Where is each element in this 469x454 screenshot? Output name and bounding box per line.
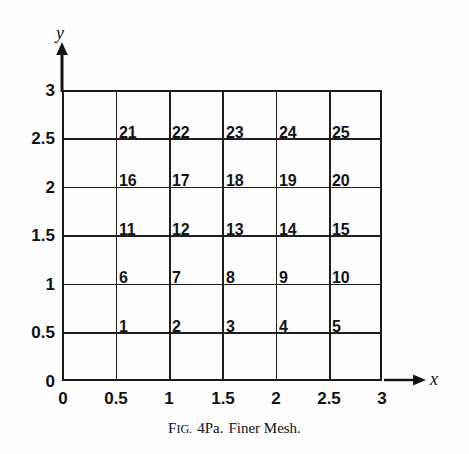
- node-number: 1: [119, 319, 128, 335]
- node-number: 16: [119, 173, 136, 189]
- node-number-layer: 21 22 23 24 25 16 17 18 19 20 11 12 13 1…: [64, 92, 380, 379]
- caption-prefix-rest: IG.: [176, 422, 192, 436]
- y-tick-label: 1: [46, 276, 55, 293]
- node-number: 8: [226, 270, 235, 286]
- y-tick-label: 3: [46, 82, 55, 99]
- mesh-grid: 21 22 23 24 25 16 17 18 19 20 11 12 13 1…: [62, 90, 382, 381]
- y-axis-name: y: [56, 24, 64, 42]
- x-tick-label: 0.5: [104, 390, 128, 407]
- node-number: 10: [332, 270, 349, 286]
- x-tick-label: 2.5: [317, 390, 341, 407]
- y-tick-label: 0: [46, 373, 55, 390]
- x-tick-label: 0: [58, 390, 67, 407]
- node-number: 13: [226, 222, 243, 238]
- node-number: 21: [119, 125, 136, 141]
- x-axis-name: x: [430, 370, 438, 388]
- node-number: 15: [332, 222, 349, 238]
- node-number: 24: [279, 125, 296, 141]
- y-tick-label: 2: [46, 179, 55, 196]
- node-number: 7: [172, 270, 181, 286]
- node-number: 23: [226, 125, 243, 141]
- node-number: 25: [332, 125, 349, 141]
- node-number: 22: [172, 125, 189, 141]
- node-number: 11: [119, 222, 136, 238]
- node-number: 20: [332, 173, 349, 189]
- node-number: 4: [279, 319, 288, 335]
- caption-number: 4Pa.: [197, 420, 223, 436]
- node-number: 2: [172, 319, 181, 335]
- node-number: 17: [172, 173, 189, 189]
- x-tick-label: 3: [377, 390, 386, 407]
- x-tick-label: 1.5: [211, 390, 235, 407]
- y-tick-label: 2.5: [31, 130, 55, 147]
- arrow-up-icon: [54, 42, 70, 96]
- arrow-right-icon: [384, 370, 426, 390]
- y-tick-label: 1.5: [31, 227, 55, 244]
- node-number: 6: [119, 270, 128, 286]
- caption-title: Finer Mesh.: [228, 420, 301, 436]
- node-number: 19: [279, 173, 296, 189]
- y-tick-label: 0.5: [31, 324, 55, 341]
- x-tick-label: 2: [271, 390, 280, 407]
- node-number: 5: [332, 319, 341, 335]
- node-number: 18: [226, 173, 243, 189]
- figure-caption: FIG.4Pa.Finer Mesh.: [0, 420, 469, 437]
- x-tick-label: 1: [164, 390, 173, 407]
- node-number: 3: [226, 319, 235, 335]
- node-number: 12: [172, 222, 189, 238]
- node-number: 9: [279, 270, 288, 286]
- node-number: 14: [279, 222, 296, 238]
- figure-page: y x 3 2.5 2 1.5 1 0.5 0 0 0.5 1 1.5 2 2.…: [0, 0, 469, 454]
